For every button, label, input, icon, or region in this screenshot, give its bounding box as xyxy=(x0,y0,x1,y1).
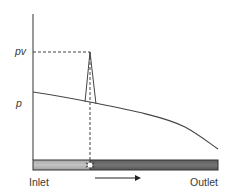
p-label: p xyxy=(16,97,22,109)
inlet-label: Inlet xyxy=(29,176,49,188)
outlet-label: Outlet xyxy=(190,176,218,188)
flow-arrow-icon xyxy=(135,175,141,181)
pressure-diagram xyxy=(0,0,229,194)
pipe-bar-light-section xyxy=(33,160,90,170)
pv-label: pv xyxy=(15,45,26,57)
pipe-bar-dark-section xyxy=(90,160,218,170)
pressure-curve xyxy=(33,92,218,149)
